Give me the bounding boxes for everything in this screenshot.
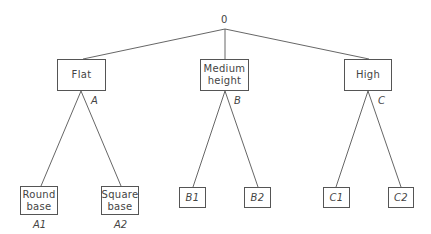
node-b2: B2 bbox=[244, 187, 271, 208]
node-b1-label: B1 bbox=[186, 192, 200, 204]
node-square-line2: base bbox=[107, 201, 132, 213]
root-node: 0 bbox=[221, 14, 227, 25]
node-flat: Flat bbox=[57, 59, 106, 91]
edge-flat-round bbox=[41, 91, 81, 186]
node-round-line2: base bbox=[26, 201, 51, 213]
edge-medium-b1 bbox=[193, 91, 225, 187]
node-c2: C2 bbox=[388, 187, 414, 208]
label-a1: A1 bbox=[33, 219, 46, 230]
node-c1: C1 bbox=[323, 187, 350, 208]
node-c1-label: C1 bbox=[330, 192, 344, 204]
edge-medium-b2 bbox=[225, 91, 258, 187]
node-high: High bbox=[344, 59, 392, 91]
node-square-base: Square base bbox=[101, 186, 139, 215]
tree-edges bbox=[0, 0, 431, 234]
node-medium-height: Medium height bbox=[200, 59, 249, 91]
node-round-line1: Round bbox=[22, 189, 55, 201]
edge-flat-square bbox=[81, 91, 121, 186]
branch-label-b: B bbox=[234, 95, 241, 106]
edge-root-high bbox=[225, 29, 369, 59]
node-round-base: Round base bbox=[20, 186, 58, 215]
edge-high-c1 bbox=[336, 91, 368, 187]
node-b1: B1 bbox=[179, 187, 206, 208]
node-medium-line2: height bbox=[208, 75, 242, 87]
edge-root-flat bbox=[83, 29, 225, 59]
label-a2: A2 bbox=[114, 219, 127, 230]
node-c2-label: C2 bbox=[394, 192, 408, 204]
branch-label-a: A bbox=[91, 95, 98, 106]
node-high-label: High bbox=[356, 69, 380, 81]
node-b2-label: B2 bbox=[251, 192, 265, 204]
node-flat-label: Flat bbox=[72, 69, 92, 81]
node-square-line1: Square bbox=[102, 189, 139, 201]
branch-label-c: C bbox=[378, 95, 385, 106]
node-medium-line1: Medium bbox=[204, 63, 246, 75]
